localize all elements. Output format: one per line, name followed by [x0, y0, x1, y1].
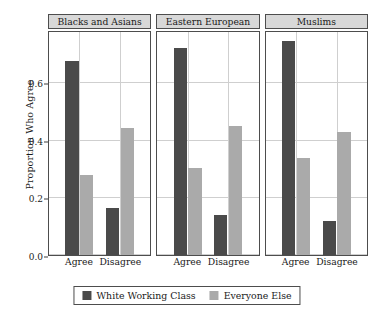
panel-strip-label: Blacks and Asians: [48, 14, 151, 29]
x-axis-panel-1: AgreeDisagree: [48, 256, 151, 276]
chart-legend: White Working ClassEveryone Else: [73, 286, 300, 305]
legend-item: Everyone Else: [210, 290, 292, 301]
gridline-horizontal: [49, 82, 150, 83]
gridline-horizontal: [266, 254, 367, 255]
bar-white-working-class-agree: [65, 61, 78, 255]
x-axis: AgreeDisagreeAgreeDisagreeAgreeDisagree: [48, 256, 368, 276]
bar-everyone-else-disagree: [121, 128, 134, 255]
gridline-horizontal: [266, 82, 367, 83]
gridline-horizontal: [157, 140, 258, 141]
gridline-horizontal: [266, 197, 367, 198]
x-axis-tick-label: Agree: [173, 256, 201, 267]
legend-label: Everyone Else: [224, 290, 292, 301]
x-axis-tick-label: Disagree: [316, 256, 358, 267]
gridline-horizontal: [157, 197, 258, 198]
bar-white-working-class-agree: [282, 41, 295, 255]
bar-everyone-else-agree: [297, 158, 310, 255]
x-axis-tick-label: Agree: [65, 256, 93, 267]
x-axis-panel-3: AgreeDisagree: [265, 256, 368, 276]
gridline-horizontal: [49, 140, 150, 141]
panel-strip-label: Eastern European: [156, 14, 259, 29]
gridline-horizontal: [49, 254, 150, 255]
x-axis-tick-label: Disagree: [100, 256, 142, 267]
y-axis-tick-label: 0.2: [3, 194, 43, 204]
y-axis-tick-label: 0.0: [3, 252, 43, 262]
chart-panel-2: Eastern European: [156, 14, 259, 256]
bar-white-working-class-disagree: [214, 215, 227, 255]
bar-everyone-else-disagree: [229, 126, 242, 255]
gridline-horizontal: [157, 82, 258, 83]
gridline-horizontal: [157, 254, 258, 255]
x-axis-tick-label: Disagree: [208, 256, 250, 267]
bar-everyone-else-disagree: [337, 132, 350, 255]
x-axis-panel-2: AgreeDisagree: [156, 256, 259, 276]
gridline-horizontal: [266, 140, 367, 141]
bar-white-working-class-disagree: [323, 221, 336, 255]
chart-panel-3: Muslims: [265, 14, 368, 256]
x-axis-tick-label: Agree: [282, 256, 310, 267]
chart-figure: Proportion Who Agree 0.00.20.40.6 Blacks…: [0, 0, 374, 319]
legend-swatch-icon: [82, 291, 91, 300]
bar-white-working-class-agree: [174, 48, 187, 255]
y-axis: 0.00.20.40.6: [0, 0, 48, 319]
y-axis-tick-label: 0.6: [3, 79, 43, 89]
legend-label: White Working Class: [96, 290, 195, 301]
legend-item: White Working Class: [82, 290, 195, 301]
gridline-horizontal: [49, 197, 150, 198]
bar-white-working-class-disagree: [106, 208, 119, 255]
panel-row: Blacks and AsiansEastern EuropeanMuslims: [48, 14, 368, 256]
panel-plot-area: [265, 31, 368, 256]
panel-plot-area: [156, 31, 259, 256]
panel-strip-label: Muslims: [265, 14, 368, 29]
bar-everyone-else-agree: [188, 168, 201, 255]
panel-plot-area: [48, 31, 151, 256]
chart-panel-1: Blacks and Asians: [48, 14, 151, 256]
legend-swatch-icon: [210, 291, 219, 300]
y-axis-tick-label: 0.4: [3, 137, 43, 147]
bar-everyone-else-agree: [80, 175, 93, 255]
